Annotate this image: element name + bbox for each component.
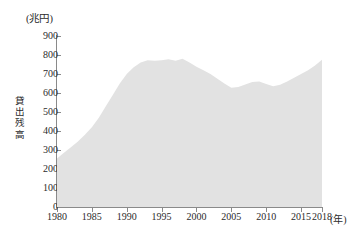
y-axis-tick-label: 800 [43, 49, 58, 60]
area-chart-svg [57, 36, 322, 207]
y-axis-title-char: 貸 [13, 96, 26, 107]
y-axis-tick-label: 900 [43, 30, 58, 41]
y-axis-unit-label: (兆円) [26, 10, 53, 25]
y-axis-title: 貸 出 残 高 [13, 96, 26, 141]
y-axis-tick-label: 400 [43, 125, 58, 136]
y-axis-tick-label: 100 [43, 182, 58, 193]
x-axis-tick-label: 1985 [82, 211, 102, 222]
x-axis-tick-label: 2010 [256, 211, 276, 222]
chart-figure: (兆円) 貸 出 残 高 900800700600500400300200100… [0, 0, 360, 240]
y-axis-title-char: 高 [13, 130, 26, 141]
x-axis-unit-label: (年) [330, 211, 347, 226]
x-axis-tick-label: 2000 [186, 211, 206, 222]
y-axis-title-char: 残 [13, 118, 26, 129]
y-axis-tick-label: 200 [43, 163, 58, 174]
loan-balance-area [57, 59, 322, 207]
y-axis-tick-label: 700 [43, 68, 58, 79]
x-axis-tick-label: 1980 [47, 211, 67, 222]
plot-area [57, 36, 322, 207]
x-axis-tick-label: 2018 [312, 211, 332, 222]
y-axis-tick-label: 300 [43, 144, 58, 155]
y-axis-tick-label: 600 [43, 87, 58, 98]
x-axis-tick-label: 2005 [221, 211, 241, 222]
x-axis-line [56, 207, 323, 208]
x-axis-tick-label: 1995 [152, 211, 172, 222]
x-axis-tick-label: 2015 [291, 211, 311, 222]
x-axis-tick-label: 1990 [117, 211, 137, 222]
y-axis-tick-label: 500 [43, 106, 58, 117]
y-axis-title-char: 出 [13, 107, 26, 118]
